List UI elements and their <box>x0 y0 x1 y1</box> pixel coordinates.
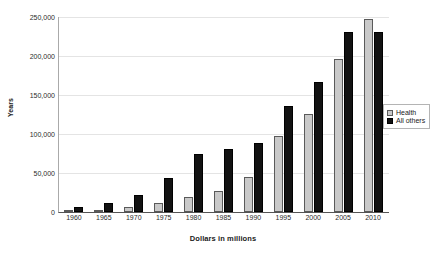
x-axis-tick-label: 1985 <box>209 214 239 221</box>
y-axis-tick-label: 150,000 <box>6 92 58 99</box>
legend-label: Health <box>396 109 416 116</box>
y-axis-tick-label: 0 <box>6 209 58 216</box>
bar-health-1980 <box>184 197 193 212</box>
x-axis-tick-label: 1980 <box>179 214 209 221</box>
bar-health-1995 <box>274 136 283 212</box>
legend-label: All others <box>396 117 425 124</box>
x-axis-tick-label: 1960 <box>59 214 89 221</box>
bar-health-1975 <box>154 203 163 212</box>
bar-health-2005 <box>334 59 343 212</box>
bar-health-2000 <box>304 114 313 212</box>
x-axis-tick-label: 2000 <box>298 214 328 221</box>
bar-all-others-1995 <box>284 106 293 212</box>
y-axis-tick-label: 50,000 <box>6 170 58 177</box>
x-axis-tick-label: 1990 <box>238 214 268 221</box>
bar-health-2010 <box>364 19 373 212</box>
bar-all-others-1965 <box>104 203 113 212</box>
bar-group <box>149 17 179 212</box>
x-axis-tick-label: 1995 <box>268 214 298 221</box>
bar-health-1970 <box>124 207 133 212</box>
legend-item[interactable]: All others <box>387 117 425 124</box>
bar-all-others-2010 <box>374 32 383 212</box>
bar-all-others-2000 <box>314 82 323 212</box>
y-axis-tick-label: 200,000 <box>6 53 58 60</box>
bar-all-others-1980 <box>194 154 203 212</box>
chart-legend: HealthAll others <box>383 104 430 129</box>
x-axis-tick-label: 1965 <box>89 214 119 221</box>
legend-swatch-icon <box>387 110 393 116</box>
bar-group <box>328 17 358 212</box>
bar-health-1960 <box>64 210 73 212</box>
bar-group <box>298 17 328 212</box>
y-axis-tick-label: 100,000 <box>6 131 58 138</box>
bar-group <box>89 17 119 212</box>
y-axis-tick-label: 250,000 <box>6 14 58 21</box>
bar-group <box>209 17 239 212</box>
bar-all-others-2005 <box>344 32 353 212</box>
bar-all-others-1960 <box>74 207 83 212</box>
bar-group <box>179 17 209 212</box>
x-axis-tick-label: 2005 <box>328 214 358 221</box>
y-axis-tick-labels: 050,000100,000150,000200,000250,000 <box>0 17 58 212</box>
bar-group <box>59 17 89 212</box>
bar-health-1985 <box>214 191 223 212</box>
bar-all-others-1990 <box>254 143 263 212</box>
legend-item[interactable]: Health <box>387 109 425 116</box>
x-axis-tick-label: 1970 <box>119 214 149 221</box>
bar-all-others-1975 <box>164 178 173 212</box>
bar-health-1990 <box>244 177 253 212</box>
x-axis-tick-labels: 1960196519701975198019851990199520002005… <box>59 214 388 221</box>
bar-all-others-1970 <box>134 195 143 212</box>
bar-group <box>119 17 149 212</box>
bar-group <box>238 17 268 212</box>
bar-chart: Years 050,000100,000150,000200,000250,00… <box>0 0 448 258</box>
x-axis-title: Dollars in millions <box>58 234 388 243</box>
bar-group <box>268 17 298 212</box>
x-axis-tick-label: 2010 <box>358 214 388 221</box>
x-axis-tick-label: 1975 <box>149 214 179 221</box>
bar-all-others-1985 <box>224 149 233 212</box>
bar-health-1965 <box>94 210 103 212</box>
legend-swatch-icon <box>387 118 393 124</box>
bars-layer <box>59 17 388 212</box>
